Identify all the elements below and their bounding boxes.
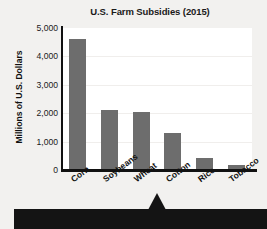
x-tick-label: Corn	[69, 164, 91, 184]
x-axis-tick-labels: CornSoybeansWheatCottonRiceTobacco	[0, 0, 267, 229]
chart-figure: U.S. Farm Subsidies (2015) Millions of U…	[0, 0, 267, 229]
x-tick-label: Rice	[196, 165, 217, 184]
x-tick-label: Tobacco	[227, 155, 261, 184]
triangle-up-icon	[148, 193, 166, 210]
x-tick-label: Wheat	[132, 160, 159, 184]
x-tick-label: Soybeans	[101, 152, 139, 184]
bottom-banner	[14, 209, 267, 229]
x-tick-label: Cotton	[164, 159, 192, 184]
